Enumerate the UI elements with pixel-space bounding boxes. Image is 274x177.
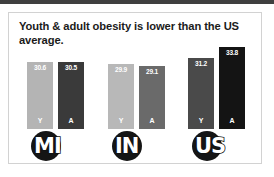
category-label-mi: MI: [23, 130, 85, 162]
bar-series-label-mi-adult: A: [58, 117, 84, 124]
bar-value-in-youth: 29.9: [108, 66, 134, 73]
bar-pair-us: 31.2 Y 33.8 A: [184, 47, 254, 129]
bar-in-youth[interactable]: 29.9 Y: [108, 64, 134, 129]
bar-series-label-in-adult: A: [139, 117, 165, 124]
bar-us-adult[interactable]: 33.8 A: [219, 47, 245, 129]
bar-mi-adult[interactable]: 30.5 A: [58, 62, 84, 129]
category-badge-mi: MI: [23, 129, 93, 163]
bar-us-youth[interactable]: 31.2 Y: [188, 58, 214, 129]
bar-chart: 30.6 Y 30.5 A MI 29.9 Y 29.1: [9, 47, 261, 163]
bar-series-label-in-youth: Y: [108, 117, 134, 124]
bar-value-mi-youth: 30.6: [27, 64, 53, 71]
bar-in-adult[interactable]: 29.1 A: [139, 66, 165, 129]
category-label-us: US: [184, 130, 246, 162]
category-label-in: IN: [104, 130, 166, 162]
top-accent-bar: [0, 0, 274, 4]
bar-pair-mi: 30.6 Y 30.5 A: [23, 47, 93, 129]
bar-mi-youth[interactable]: 30.6 Y: [27, 62, 53, 129]
bar-value-us-adult: 33.8: [219, 49, 245, 56]
bar-group-mi: 30.6 Y 30.5 A MI: [23, 47, 93, 163]
bar-series-label-us-youth: Y: [188, 117, 214, 124]
chart-card: Youth & adult obesity is lower than the …: [8, 12, 262, 164]
bar-series-label-mi-youth: Y: [27, 117, 53, 124]
bar-value-in-adult: 29.1: [139, 68, 165, 75]
bar-group-us: 31.2 Y 33.8 A US: [184, 47, 254, 163]
bar-group-in: 29.9 Y 29.1 A IN: [104, 47, 174, 163]
category-badge-in: IN: [104, 129, 174, 163]
bar-value-mi-adult: 30.5: [58, 64, 84, 71]
bar-pair-in: 29.9 Y 29.1 A: [104, 47, 174, 129]
page-title: Youth & adult obesity is lower than the …: [19, 19, 243, 47]
bar-value-us-youth: 31.2: [188, 60, 214, 67]
category-badge-us: US: [184, 129, 254, 163]
bar-series-label-us-adult: A: [219, 117, 245, 124]
